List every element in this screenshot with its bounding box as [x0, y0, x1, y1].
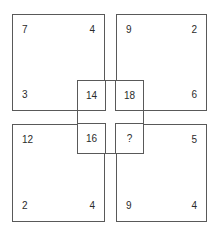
value-top-left-square-bottom-left: 3	[22, 90, 28, 100]
center-cell-top-left: 14	[78, 81, 106, 111]
puzzle-canvas: 7 4 3 9 2 6 12 2 4 5 9 4 14 18 16 ?	[0, 0, 218, 234]
value-bottom-right-square-top-right: 5	[191, 135, 197, 145]
value-bottom-left-square-bottom-right: 4	[89, 201, 95, 211]
value-bottom-left-square-top-left: 12	[22, 135, 33, 145]
value-top-left-square-top-left: 7	[22, 25, 28, 35]
value-top-right-square-bottom-right: 6	[191, 90, 197, 100]
center-square: 14 18 16 ?	[77, 80, 144, 154]
value-top-right-square-top-right: 2	[191, 25, 197, 35]
value-bottom-right-square-bottom-right: 4	[191, 201, 197, 211]
center-cell-bottom-right-unknown: ?	[115, 123, 143, 153]
value-top-left-square-top-right: 4	[89, 25, 95, 35]
value-top-right-square-top-left: 9	[126, 25, 132, 35]
value-bottom-right-square-bottom-left: 9	[126, 201, 132, 211]
center-cell-top-right: 18	[115, 81, 143, 111]
center-mask-horizontal	[78, 111, 143, 123]
value-bottom-left-square-bottom-left: 2	[22, 201, 28, 211]
center-cell-bottom-left: 16	[78, 123, 106, 153]
